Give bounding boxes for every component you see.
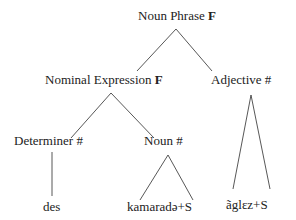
edge-adj-leaf-right [251, 95, 270, 189]
node-label: Noun Phrase [138, 8, 205, 23]
leaf-noun: kamaradə+S [127, 199, 192, 215]
node-marker: # [76, 133, 83, 148]
edge-np-ne [137, 29, 176, 71]
node-label: Adjective [211, 72, 262, 87]
node-label: Nominal Expression [45, 72, 152, 87]
node-label: Determiner [14, 133, 73, 148]
node-marker: # [176, 133, 183, 148]
node-nominal-expression: Nominal Expression F [45, 72, 163, 88]
node-determiner: Determiner # [14, 133, 83, 149]
node-adjective: Adjective # [211, 72, 271, 88]
leaf-text: ãglɛz+S [226, 197, 268, 212]
leaf-determiner: des [43, 199, 60, 215]
node-noun: Noun # [144, 133, 183, 149]
edge-ne-noun [111, 93, 154, 138]
node-noun-phrase: Noun Phrase F [138, 8, 216, 24]
edge-noun-leaf-left [140, 155, 168, 200]
leaf-adjective: ãglɛz+S [226, 197, 268, 213]
tree-edges [0, 0, 296, 220]
leaf-text: kamaradə+S [127, 199, 192, 214]
edge-adj-leaf-left [233, 95, 251, 189]
node-label: Noun [144, 133, 173, 148]
leaf-text: des [43, 199, 60, 214]
edge-ne-det [71, 93, 111, 138]
node-marker: F [155, 72, 163, 87]
node-marker: F [208, 8, 216, 23]
edge-noun-leaf-right [168, 155, 193, 200]
edge-np-adj [176, 29, 212, 71]
node-marker: # [265, 72, 272, 87]
